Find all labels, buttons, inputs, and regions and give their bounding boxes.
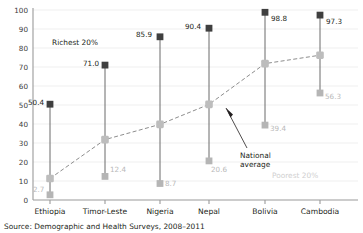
y-tick-label: 0: [23, 196, 28, 205]
poorest-markers: [47, 90, 324, 199]
x-tick-label-nigeria: Nigeria: [146, 207, 173, 216]
y-tick-label: 100: [14, 6, 28, 15]
poorest-marker-nepal: [206, 158, 213, 165]
x-tick-label-timor-leste: Timor-Leste: [82, 207, 128, 216]
poorest-value-nigeria: 8.7: [165, 179, 176, 188]
y-tick-label: 60: [19, 82, 29, 91]
poorest-marker-cambodia: [317, 90, 324, 97]
y-tick-label: 20: [19, 158, 29, 167]
richest-marker-nigeria: [157, 33, 164, 40]
richest-value-timor-leste: 71.0: [83, 59, 99, 68]
richest-marker-nepal: [206, 25, 213, 32]
richest-value-cambodia: 97.3: [326, 17, 342, 26]
poorest-marker-timor-leste: [102, 173, 109, 180]
average-markers: [46, 51, 324, 182]
poorest-value-timor-leste: 12.4: [110, 165, 126, 174]
y-tick-label: 90: [19, 25, 29, 34]
richest-marker-timor-leste: [102, 62, 109, 69]
x-axis: Ethiopia Timor-Leste Nigeria Nepal Boliv…: [33, 200, 358, 216]
national-average-arrow-icon: [226, 108, 233, 118]
richest-marker-ethiopia: [47, 101, 54, 108]
poorest-value-bolivia: 39.4: [270, 124, 286, 133]
national-average-label-line2: average: [240, 160, 271, 169]
x-tick-label-ethiopia: Ethiopia: [35, 207, 66, 216]
gridlines: [33, 10, 358, 181]
y-tick-label: 70: [19, 63, 29, 72]
national-average-label-line1: National: [240, 151, 271, 160]
chart-figure: 100 90 80 70 60 50 40 30 20 10 0 Ethiopi…: [0, 0, 363, 233]
average-marker-nigeria: [156, 121, 164, 129]
poorest-annotation-label: Poorest 20%: [272, 171, 318, 180]
x-tick-label-bolivia: Bolivia: [252, 207, 277, 216]
average-marker-timor-leste: [101, 136, 109, 144]
y-tick-label: 10: [19, 177, 29, 186]
poorest-value-nepal: 20.6: [211, 165, 227, 174]
richest-value-nigeria: 85.9: [136, 30, 152, 39]
richest-annotation-label: Richest 20%: [52, 38, 98, 47]
average-marker-bolivia: [261, 60, 269, 68]
x-tick-label-cambodia: Cambodia: [301, 207, 339, 216]
richest-marker-cambodia: [317, 12, 324, 19]
national-average-line: [50, 55, 320, 178]
y-tick-label: 50: [19, 101, 29, 110]
average-marker-nepal: [205, 101, 213, 109]
y-tick-label: 30: [19, 139, 29, 148]
poorest-value-cambodia: 56.3: [325, 92, 341, 101]
poorest-marker-nigeria: [157, 180, 164, 187]
x-tick-label-nepal: Nepal: [198, 207, 220, 216]
y-tick-label: 40: [19, 120, 29, 129]
poorest-marker-bolivia: [262, 122, 269, 129]
equity-range-chart: 100 90 80 70 60 50 40 30 20 10 0 Ethiopi…: [0, 0, 363, 233]
poorest-marker-ethiopia: [47, 191, 54, 198]
source-caption: Source: Demographic and Health Surveys, …: [4, 222, 205, 231]
average-marker-ethiopia: [46, 175, 54, 183]
richest-value-ethiopia: 50.4: [28, 98, 44, 107]
average-marker-cambodia: [316, 51, 324, 59]
richest-value-bolivia: 98.8: [271, 14, 287, 23]
poorest-value-ethiopia: 2.7: [33, 185, 44, 194]
richest-marker-bolivia: [262, 9, 269, 16]
richest-value-labels: 50.4 71.0 85.9 90.4 98.8 97.3: [28, 14, 342, 107]
y-tick-label: 80: [19, 44, 29, 53]
richest-value-nepal: 90.4: [185, 22, 201, 31]
